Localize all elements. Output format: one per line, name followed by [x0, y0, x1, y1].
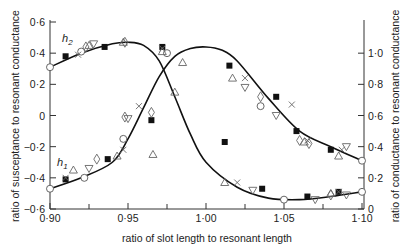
y-right-axis-label: ratio of conductance to resonant conduct…	[389, 10, 401, 223]
svg-text:−0·4: −0·4	[24, 172, 45, 184]
svg-text:0·6: 0·6	[30, 16, 45, 28]
x-axis-label: ratio of slot length to resonant length	[122, 232, 292, 244]
annotation-h2: h2	[62, 32, 73, 47]
data-markers	[47, 37, 366, 203]
svg-text:1·0: 1·0	[368, 47, 383, 59]
svg-text:0: 0	[368, 203, 374, 215]
svg-text:0·4: 0·4	[368, 141, 383, 153]
ticks	[50, 22, 364, 209]
svg-text:0·8: 0·8	[368, 78, 383, 90]
svg-text:1·05: 1·05	[273, 212, 294, 224]
svg-text:0·2: 0·2	[30, 78, 45, 90]
y-left-axis-label: ratio of susceptance to resonant conduct…	[9, 10, 21, 222]
svg-text:0·2: 0·2	[368, 172, 383, 184]
svg-text:0·95: 0·95	[117, 212, 138, 224]
annotation-h1: h1	[57, 156, 68, 171]
chart: 0·900·951·001·051·100·60·40·20−0·2−0·4−0…	[0, 0, 414, 249]
svg-text:0·6: 0·6	[368, 110, 383, 122]
susceptance-curve	[50, 42, 362, 200]
svg-text:1·00: 1·00	[195, 212, 216, 224]
svg-text:−0·2: −0·2	[24, 141, 45, 153]
conductance-curve	[50, 47, 362, 189]
svg-text:−0·6: −0·6	[24, 203, 45, 215]
svg-text:0: 0	[39, 110, 45, 122]
svg-text:0·4: 0·4	[30, 47, 45, 59]
